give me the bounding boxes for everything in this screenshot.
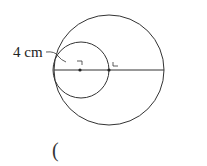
radius-label: 4 cm [13, 44, 43, 60]
center-mark-small [77, 61, 82, 65]
center-mark-large [113, 62, 118, 66]
geometry-diagram: 4 cm ( [0, 0, 207, 166]
answer-parenthesis: ( [52, 139, 59, 162]
small-circle-center-point [78, 68, 81, 71]
large-circle-center-point [107, 68, 110, 71]
